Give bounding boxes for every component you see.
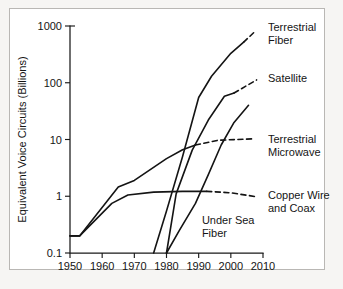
x-tick-label: 1980 — [154, 260, 178, 272]
line-chart: 0.11101001000195019601970198019902000201… — [0, 0, 343, 289]
x-tick-label: 1960 — [90, 260, 114, 272]
series-label-line: Terrestrial — [268, 21, 316, 33]
series-label-terrestrial-fiber: TerrestrialFiber — [268, 21, 316, 46]
series-label-line: Satellite — [268, 72, 307, 84]
x-tick-label: 2000 — [219, 260, 243, 272]
y-tick-label: 0.1 — [47, 247, 62, 259]
series-label-copper-wire-and-coax: Copper Wireand Coax — [268, 189, 330, 214]
series-line-copper-wire-and-coax — [70, 191, 207, 236]
series-label-line: Terrestrial — [268, 133, 316, 145]
x-tick-label: 1970 — [122, 260, 146, 272]
series-label-line: Fiber — [268, 34, 293, 46]
series-label-line: Microwave — [268, 146, 321, 158]
annotation-line: Fiber — [202, 227, 227, 239]
annotation-under-sea-fiber: Under SeaFiber — [202, 214, 255, 239]
series-dashed-terrestrial-microwave — [195, 139, 255, 145]
series-label-line: and Coax — [268, 202, 316, 214]
y-tick-label: 10 — [50, 134, 62, 146]
y-tick-label: 1000 — [38, 20, 62, 32]
x-tick-label: 1990 — [186, 260, 210, 272]
y-tick-label: 100 — [44, 77, 62, 89]
series-dashed-copper-wire-and-coax — [207, 191, 257, 196]
series-label-terrestrial-microwave: TerrestrialMicrowave — [268, 133, 321, 158]
series-label-satellite: Satellite — [268, 72, 307, 84]
figure-container: 0.11101001000195019601970198019902000201… — [0, 0, 343, 289]
annotation-line: Under Sea — [202, 214, 255, 226]
series-label-line: Copper Wire — [268, 189, 330, 201]
series-dashed-satellite — [234, 80, 257, 93]
y-axis-title: Equivalent Voice Circuits (Billions) — [16, 56, 28, 222]
x-tick-label: 2010 — [251, 260, 275, 272]
y-tick-label: 1 — [56, 190, 62, 202]
series-dashed-terrestrial-fiber — [244, 32, 255, 43]
x-tick-label: 1950 — [58, 260, 82, 272]
